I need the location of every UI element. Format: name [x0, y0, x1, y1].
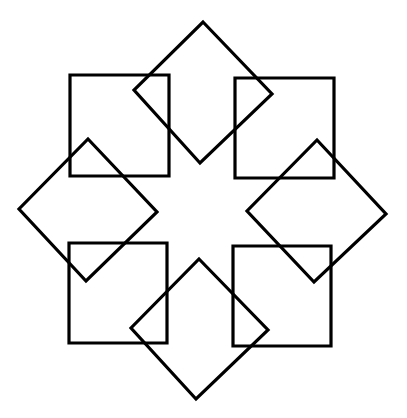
star-diagram	[0, 0, 407, 418]
square-bottom-left	[69, 243, 167, 343]
square-top-left	[70, 75, 169, 176]
square-bottom-right	[233, 246, 331, 346]
diamond-top	[134, 22, 272, 163]
diamond-right	[247, 140, 386, 282]
diamond-bottom	[131, 259, 268, 399]
diamond-left	[19, 139, 157, 281]
square-top-right	[235, 78, 334, 178]
